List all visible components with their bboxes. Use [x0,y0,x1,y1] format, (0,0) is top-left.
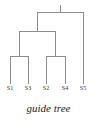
leaf-label-s4: S4 [62,84,68,93]
dendrogram-plot [0,0,97,84]
leaf-label-s3: S3 [25,84,31,93]
guide-tree-figure: S1 S3 S2 S4 S5 guide tree [0,0,97,128]
leaf-label-s5: S5 [80,84,86,93]
leaf-label-row: S1 S3 S2 S4 S5 [0,84,97,97]
leaf-label-s1: S1 [7,84,13,93]
dendrogram-branches [10,5,83,84]
leaf-label-s2: S2 [43,84,49,93]
dendrogram-svg [0,0,97,84]
figure-caption: guide tree [0,101,97,115]
